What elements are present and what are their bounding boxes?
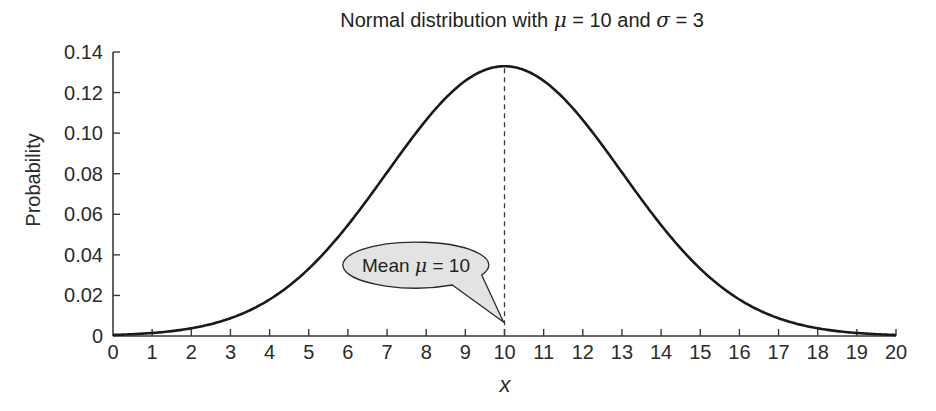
x-tick-label: 12: [572, 341, 594, 363]
x-axis-label: x: [499, 372, 512, 397]
y-tick-label: 0.12: [64, 82, 103, 104]
callout-text: Mean μ = 10: [362, 254, 470, 276]
x-tick-label: 17: [767, 341, 789, 363]
x-tick-label: 15: [689, 341, 711, 363]
x-tick-label: 9: [460, 341, 471, 363]
y-tick-label: 0.14: [64, 41, 103, 63]
y-axis-label: Probability: [22, 133, 44, 226]
chart-title: Normal distribution with μ = 10 and σ = …: [340, 8, 704, 32]
x-tick-label: 8: [421, 341, 432, 363]
y-tick-label: 0.10: [64, 122, 103, 144]
x-tick-label: 16: [728, 341, 750, 363]
x-tick-label: 11: [533, 341, 554, 363]
x-tick-label: 4: [264, 341, 275, 363]
x-tick-label: 20: [885, 341, 907, 363]
y-tick-label: 0: [92, 325, 103, 347]
x-tick-label: 3: [225, 341, 236, 363]
y-tick-label: 0.08: [64, 163, 103, 185]
x-tick-label: 19: [846, 341, 868, 363]
x-tick-label: 6: [342, 341, 353, 363]
y-tick-label: 0.06: [64, 203, 103, 225]
x-axis-ticks: 01234567891011121314151617181920: [107, 329, 907, 363]
x-tick-label: 18: [807, 341, 829, 363]
x-tick-label: 13: [611, 341, 633, 363]
x-tick-label: 10: [493, 341, 515, 363]
normal-distribution-chart: Normal distribution with μ = 10 and σ = …: [0, 0, 936, 411]
mean-callout: Mean μ = 10: [343, 242, 504, 322]
x-tick-label: 14: [650, 341, 672, 363]
x-tick-label: 7: [381, 341, 392, 363]
x-tick-label: 1: [147, 341, 158, 363]
x-tick-label: 0: [107, 341, 118, 363]
y-axis-ticks: 00.020.040.060.080.100.120.14: [64, 41, 120, 347]
x-tick-label: 2: [186, 341, 197, 363]
y-tick-label: 0.04: [64, 244, 103, 266]
x-tick-label: 5: [303, 341, 314, 363]
y-tick-label: 0.02: [64, 284, 103, 306]
